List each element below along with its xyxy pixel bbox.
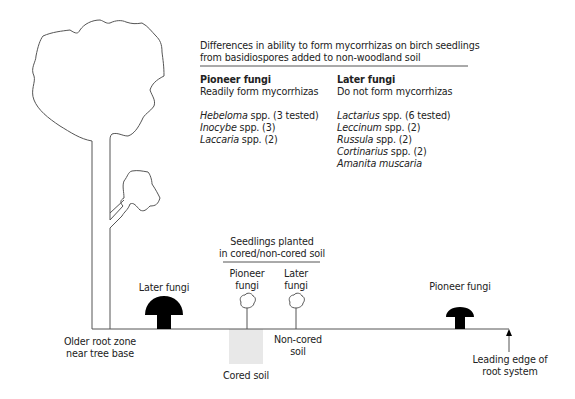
pioneer-item: Inocybe spp. (3) xyxy=(200,122,275,134)
genus-name: Hebeloma xyxy=(200,110,248,121)
genus-name: Amanita muscaria xyxy=(337,158,422,169)
seedling-later-label-1: Later xyxy=(276,268,316,280)
pioneer-title: Pioneer fungi xyxy=(200,74,271,86)
pioneer-item: Hebeloma spp. (3 tested) xyxy=(200,110,319,122)
non-cored-soil-label-1: Non-cored xyxy=(268,334,328,346)
header-line-2: from basidiospores added to non-woodland… xyxy=(200,52,420,64)
genus-detail: spp. (3) xyxy=(237,122,276,133)
later-item: Cortinarius spp. (2) xyxy=(337,146,427,158)
genus-name: Inocybe xyxy=(200,122,237,133)
later-item: Russula spp. (2) xyxy=(337,134,412,146)
seedling-pioneer-label-2: fungi xyxy=(222,280,272,292)
cored-soil-label: Cored soil xyxy=(216,370,276,382)
genus-name: Russula xyxy=(337,134,373,145)
genus-name: Laccaria xyxy=(200,134,239,145)
genus-name: Leccinum xyxy=(337,122,382,133)
leading-edge-arrow-icon xyxy=(506,329,512,336)
later-fungi-label: Later fungi xyxy=(134,282,194,294)
seedling-pioneer-crown-icon xyxy=(240,293,255,308)
seedlings-label-2: in cored/non-cored soil xyxy=(216,248,328,260)
genus-detail: spp. (2) xyxy=(388,146,427,157)
pioneer-subtitle: Readily form mycorrhizas xyxy=(200,86,318,98)
genus-detail: spp. (2) xyxy=(382,122,421,133)
later-subtitle: Do not form mycorrhizas xyxy=(337,86,452,98)
pioneer-fungi-mushroom-icon xyxy=(446,307,474,329)
later-title: Later fungi xyxy=(337,74,395,86)
genus-name: Lactarius xyxy=(337,110,379,121)
seedling-later-crown-icon xyxy=(289,293,304,308)
genus-detail: spp. (3 tested) xyxy=(248,110,319,121)
pioneer-item: Laccaria spp. (2) xyxy=(200,134,278,146)
genus-detail: spp. (2) xyxy=(373,134,412,145)
leading-edge-label-2: root system xyxy=(470,366,550,378)
seedling-pioneer-label-1: Pioneer xyxy=(222,268,272,280)
header-line-1: Differences in ability to form mycorrhiz… xyxy=(200,40,480,52)
later-item: Leccinum spp. (2) xyxy=(337,122,420,134)
later-fungi-mushroom-icon xyxy=(145,296,183,329)
seedlings-label-1: Seedlings planted xyxy=(216,236,328,248)
cored-soil-block xyxy=(229,329,263,364)
pioneer-fungi-label: Pioneer fungi xyxy=(420,281,500,293)
older-root-zone-label-2: near tree base xyxy=(60,348,140,360)
seedling-later-label-2: fungi xyxy=(276,280,316,292)
leading-edge-label-1: Leading edge of xyxy=(470,354,550,366)
genus-detail: spp. (6 tested) xyxy=(379,110,450,121)
later-item: Lactarius spp. (6 tested) xyxy=(337,110,450,122)
later-item: Amanita muscaria xyxy=(337,158,422,170)
older-root-zone-label-1: Older root zone xyxy=(60,336,140,348)
genus-detail: spp. (2) xyxy=(239,134,278,145)
non-cored-soil-label-2: soil xyxy=(268,346,328,358)
genus-name: Cortinarius xyxy=(337,146,388,157)
